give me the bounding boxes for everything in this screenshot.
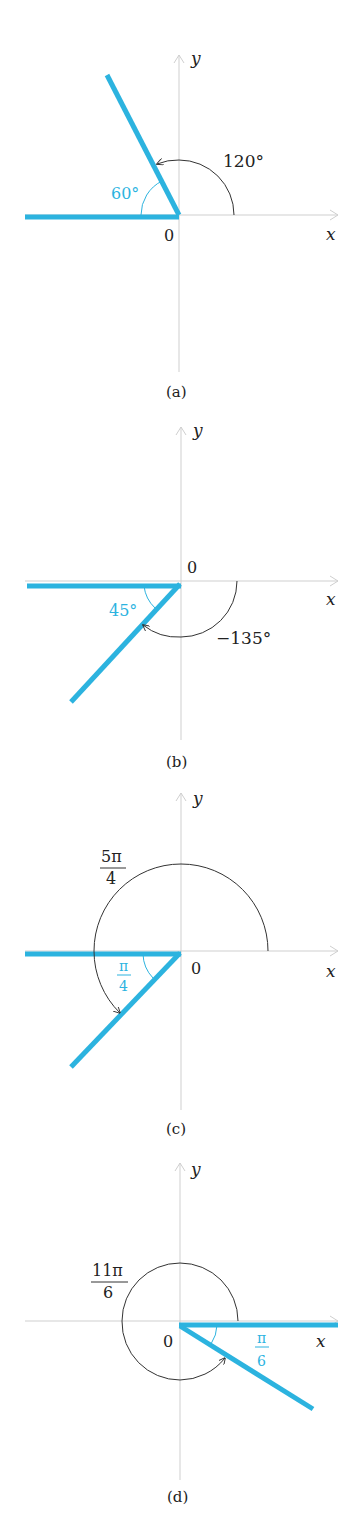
y-label: y xyxy=(192,788,203,808)
angle-label-denominator: 4 xyxy=(106,869,116,888)
angle-label-numerator: 5π xyxy=(101,847,122,866)
reference-angle-label: 45° xyxy=(109,601,137,620)
panel-c: y x 0 5π 4 π 4 (c) xyxy=(25,788,338,1138)
reference-arc xyxy=(211,1325,217,1344)
reference-angle-numerator: π xyxy=(257,1330,266,1346)
x-label: x xyxy=(326,224,336,244)
reference-arc xyxy=(141,181,162,215)
x-label: x xyxy=(316,1331,326,1351)
x-label: x xyxy=(326,589,336,609)
reference-angle-denominator: 6 xyxy=(257,1353,266,1369)
origin-label: 0 xyxy=(164,226,174,245)
angle-label: 120° xyxy=(223,151,264,171)
origin-label: 0 xyxy=(191,959,201,978)
y-label: y xyxy=(190,48,201,68)
angle-label-numerator: 11π xyxy=(92,1261,123,1280)
panel-a: y x 0 120° 60° (a) xyxy=(25,48,338,401)
y-label: y xyxy=(190,1159,201,1179)
panel-d: y x 0 11π 6 π 6 (d) xyxy=(25,1159,338,1506)
angle-label: −135° xyxy=(216,628,271,648)
reference-angle-label: 60° xyxy=(111,184,139,203)
angle-figures: y x 0 120° 60° (a) y x 0 −135° 45° (b) y xyxy=(0,0,354,1534)
origin-label: 0 xyxy=(163,1332,173,1351)
y-label: y xyxy=(192,420,203,440)
reference-arc xyxy=(144,586,155,608)
reference-arc xyxy=(143,954,153,978)
terminal-ray xyxy=(180,1326,313,1409)
x-label: x xyxy=(326,961,336,981)
caption: (d) xyxy=(167,1488,188,1506)
caption: (a) xyxy=(166,383,187,401)
panel-b: y x 0 −135° 45° (b) xyxy=(25,420,338,771)
caption: (b) xyxy=(166,753,187,771)
caption: (c) xyxy=(166,1120,186,1138)
reference-angle-denominator: 4 xyxy=(119,978,128,994)
reference-angle-numerator: π xyxy=(119,958,128,974)
origin-label: 0 xyxy=(187,558,197,577)
angle-label-denominator: 6 xyxy=(103,1283,113,1302)
